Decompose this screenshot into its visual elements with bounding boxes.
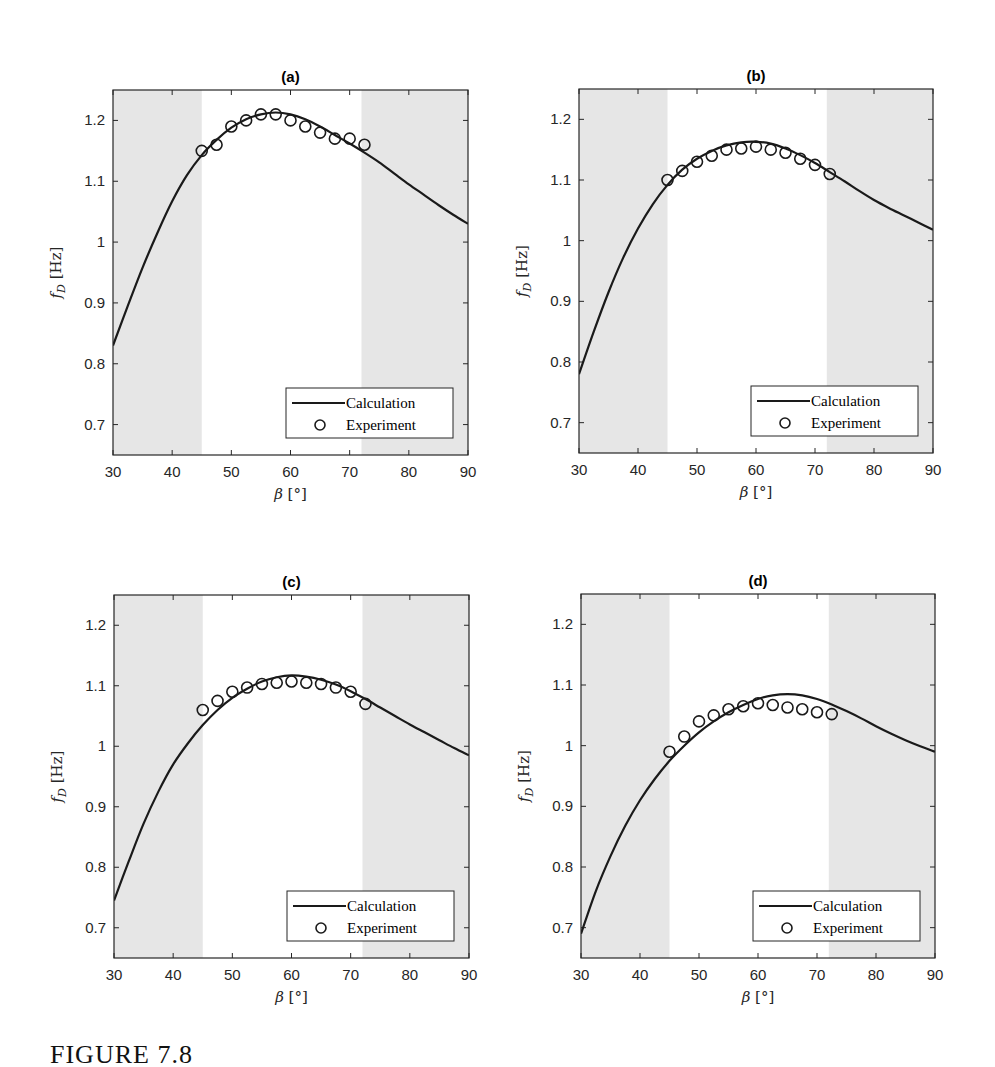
experiment-marker [271,677,282,688]
shaded-region-0 [579,89,668,453]
legend: CalculationExperiment [751,386,918,436]
panel-title: (c) [282,573,300,590]
x-tick-label: 40 [165,966,182,983]
y-tick-label: 0.8 [550,353,571,370]
x-axis-label: β [°] [739,483,773,501]
y-tick-label: 0.8 [84,355,105,372]
experiment-marker [782,702,793,713]
x-tick-label: 30 [105,463,122,480]
x-tick-label: 80 [400,463,417,480]
panel-title: (b) [746,67,765,84]
x-tick-label: 60 [282,463,299,480]
legend: CalculationExperiment [753,891,920,941]
y-axis-label: fD [Hz] [515,750,536,803]
x-tick-label: 50 [691,966,708,983]
x-tick-label: 40 [630,461,647,478]
x-tick-label: 70 [809,966,826,983]
y-tick-label: 0.9 [550,292,571,309]
experiment-marker [708,710,719,721]
x-tick-label: 50 [223,463,240,480]
experiment-marker [812,707,823,718]
legend-label-calculation: Calculation [347,898,417,914]
x-tick-label: 60 [283,966,300,983]
x-tick-label: 90 [925,461,942,478]
experiment-marker [285,115,296,126]
y-tick-label: 1 [563,232,571,249]
legend-label-experiment: Experiment [811,415,882,431]
x-tick-label: 90 [460,463,477,480]
x-tick-label: 50 [224,966,241,983]
y-tick-label: 0.9 [84,294,105,311]
x-tick-label: 30 [573,966,590,983]
x-tick-label: 30 [106,966,123,983]
x-axis-label: β [°] [274,988,308,1006]
y-axis-label: fD [Hz] [48,751,69,804]
legend-label-experiment: Experiment [347,920,418,936]
y-tick-label: 1 [98,737,106,754]
x-tick-label: 40 [632,966,649,983]
x-tick-label: 90 [461,966,478,983]
y-tick-label: 1 [97,233,105,250]
x-tick-label: 70 [807,461,824,478]
shaded-region-0 [113,90,202,455]
experiment-marker [227,686,238,697]
x-tick-label: 60 [748,461,765,478]
y-tick-label: 1.1 [84,172,105,189]
x-tick-label: 90 [927,966,944,983]
y-tick-label: 0.7 [552,919,573,936]
legend: CalculationExperiment [287,891,454,941]
chart-panel-a: 304050607080900.70.80.911.11.2Calculatio… [47,68,476,503]
legend-label-calculation: Calculation [811,393,881,409]
chart-panel-c: 304050607080900.70.80.911.11.2Calculatio… [48,573,477,1006]
legend-label-experiment: Experiment [346,417,417,433]
panel-title: (a) [281,68,299,85]
legend: CalculationExperiment [286,388,453,438]
chart-panel-d: 304050607080900.70.80.911.11.2Calculatio… [515,572,943,1006]
experiment-marker [301,677,312,688]
chart-panel-b: 304050607080900.70.80.911.11.2Calculatio… [513,67,941,501]
y-tick-label: 1.2 [550,110,571,127]
panel-title: (d) [748,572,767,589]
y-tick-label: 1.2 [84,111,105,128]
y-tick-label: 0.9 [85,798,106,815]
legend-label-calculation: Calculation [813,898,883,914]
y-axis-label: fD [Hz] [513,245,534,298]
legend-label-calculation: Calculation [346,395,416,411]
experiment-marker [300,121,311,132]
y-tick-label: 0.9 [552,797,573,814]
y-tick-label: 0.7 [550,414,571,431]
y-tick-label: 0.7 [84,416,105,433]
y-axis-label: fD [Hz] [47,247,68,300]
figure-caption: FIGURE 7.8 [50,1040,193,1067]
y-tick-label: 1 [565,737,573,754]
y-tick-label: 1.2 [85,616,106,633]
x-tick-label: 30 [571,461,588,478]
x-tick-label: 50 [689,461,706,478]
x-tick-label: 80 [401,966,418,983]
experiment-marker [797,704,808,715]
y-tick-label: 1.1 [552,676,573,693]
x-axis-label: β [°] [741,988,775,1006]
experiment-marker [679,731,690,742]
y-tick-label: 0.8 [85,858,106,875]
x-tick-label: 60 [750,966,767,983]
x-axis-label: β [°] [273,485,307,503]
x-tick-label: 80 [866,461,883,478]
y-tick-label: 0.7 [85,919,106,936]
experiment-marker [212,695,223,706]
x-tick-label: 40 [164,463,181,480]
experiment-marker [767,700,778,711]
shaded-region-0 [114,595,203,958]
experiment-marker [286,676,297,687]
y-tick-label: 0.8 [552,858,573,875]
x-tick-label: 70 [342,966,359,983]
x-tick-label: 70 [341,463,358,480]
experiment-marker [315,127,326,138]
legend-label-experiment: Experiment [813,920,884,936]
experiment-marker [694,716,705,727]
y-tick-label: 1.2 [552,615,573,632]
experiment-marker [765,144,776,155]
y-tick-label: 1.1 [85,677,106,694]
y-tick-label: 1.1 [550,171,571,188]
